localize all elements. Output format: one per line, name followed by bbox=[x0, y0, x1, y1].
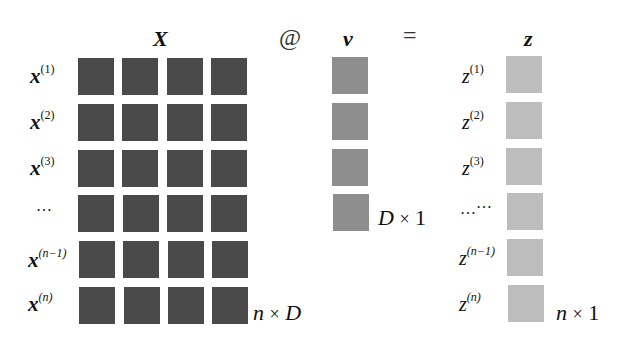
x-cell bbox=[79, 241, 115, 278]
v-cell bbox=[332, 149, 368, 186]
matmul-operator: @ bbox=[279, 24, 301, 51]
z-cell bbox=[507, 193, 543, 230]
dim-one: 1 bbox=[588, 300, 599, 325]
x-cell bbox=[123, 195, 159, 232]
x-superscript: (2) bbox=[41, 108, 55, 122]
x-cell bbox=[211, 104, 247, 141]
matrix-x-header: X bbox=[153, 26, 168, 52]
z-cell bbox=[506, 102, 542, 139]
x-symbol: x bbox=[28, 248, 39, 272]
ellipsis: … bbox=[460, 200, 476, 217]
z-superscript: (2) bbox=[470, 108, 484, 122]
x-superscript: (1) bbox=[41, 62, 55, 76]
z-cell bbox=[506, 148, 542, 185]
dim-times: × bbox=[270, 304, 280, 324]
x-cell bbox=[167, 195, 203, 232]
x-cell bbox=[167, 150, 203, 187]
z-cell bbox=[508, 285, 544, 322]
x-cell bbox=[167, 104, 203, 141]
x-symbol: x bbox=[30, 156, 41, 180]
dim-d: D bbox=[285, 300, 301, 325]
dim-d: D bbox=[378, 205, 394, 230]
matrix-x-dimension: n × D bbox=[253, 300, 301, 326]
x-cell bbox=[212, 241, 248, 278]
x-symbol: x bbox=[28, 292, 39, 316]
z-symbol: z bbox=[462, 65, 470, 87]
z-row-label-2: z(2) bbox=[462, 110, 484, 134]
x-cell bbox=[123, 241, 159, 278]
x-cell bbox=[168, 241, 204, 278]
vector-v-dimension: D × 1 bbox=[378, 205, 426, 231]
x-cell bbox=[78, 58, 114, 95]
z-row-label-1: z(1) bbox=[462, 64, 484, 88]
x-cell bbox=[211, 58, 247, 95]
x-row-label-n: x(n) bbox=[28, 292, 53, 317]
x-row-label-1: x(1) bbox=[30, 64, 55, 89]
z-superscript: (n) bbox=[467, 290, 481, 304]
x-row-label-n-minus-1: x(n−1) bbox=[28, 248, 67, 273]
z-row-label-3: z(3) bbox=[462, 156, 484, 180]
x-cell bbox=[211, 150, 247, 187]
v-cell bbox=[333, 194, 369, 231]
x-cell bbox=[122, 104, 158, 141]
x-superscript: (3) bbox=[41, 154, 55, 168]
vector-v-header: v bbox=[343, 26, 353, 52]
x-cell bbox=[79, 287, 115, 324]
dim-n: n bbox=[556, 300, 567, 325]
z-symbol: z bbox=[459, 293, 467, 315]
z-superscript: (n−1) bbox=[467, 244, 495, 258]
x-cell bbox=[78, 195, 114, 232]
x-cell bbox=[212, 287, 248, 324]
ellipsis: … bbox=[36, 197, 52, 214]
x-superscript: (n) bbox=[39, 290, 53, 304]
v-cell bbox=[332, 57, 368, 94]
z-row-label-n-minus-1: z(n−1) bbox=[459, 246, 495, 270]
x-cell bbox=[167, 58, 203, 95]
ellipsis: … bbox=[476, 194, 492, 211]
z-symbol: z bbox=[462, 111, 470, 133]
x-superscript: (n−1) bbox=[39, 246, 67, 260]
dim-times: × bbox=[399, 209, 409, 229]
dim-times: × bbox=[573, 304, 583, 324]
x-cell bbox=[122, 150, 158, 187]
z-row-label-n: z(n) bbox=[459, 292, 481, 316]
dim-n: n bbox=[253, 300, 264, 325]
x-row-label-2: x(2) bbox=[30, 110, 55, 135]
x-cell bbox=[124, 287, 160, 324]
x-cell bbox=[122, 58, 158, 95]
x-cell bbox=[78, 104, 114, 141]
vector-z-header: z bbox=[524, 26, 533, 52]
z-superscript: (1) bbox=[470, 62, 484, 76]
z-symbol: z bbox=[462, 157, 470, 179]
z-cell bbox=[506, 56, 542, 93]
x-row-label-ellipsis: … bbox=[36, 197, 52, 215]
x-symbol: x bbox=[30, 64, 41, 88]
vector-z-dimension: n × 1 bbox=[556, 300, 599, 326]
z-cell bbox=[507, 239, 543, 276]
x-cell bbox=[78, 150, 114, 187]
z-superscript: (3) bbox=[470, 154, 484, 168]
equals-operator: = bbox=[403, 22, 417, 49]
x-symbol: x bbox=[30, 110, 41, 134]
z-symbol: z bbox=[459, 247, 467, 269]
x-cell bbox=[211, 195, 247, 232]
z-row-label-ellipsis: …… bbox=[460, 200, 492, 218]
v-cell bbox=[332, 103, 368, 140]
dim-one: 1 bbox=[415, 205, 426, 230]
x-row-label-3: x(3) bbox=[30, 156, 55, 181]
x-cell bbox=[168, 287, 204, 324]
